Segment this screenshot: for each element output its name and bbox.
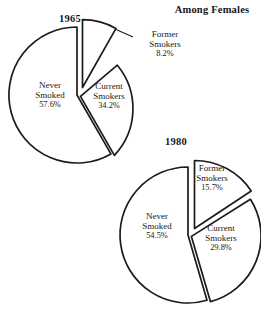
slice-label-line2: Smoked xyxy=(126,221,188,231)
slice-percent: 34.2% xyxy=(78,101,140,110)
pie-charts-canvas xyxy=(0,0,261,314)
slice-label-line1: Never xyxy=(126,211,188,221)
slice-percent: 15.7% xyxy=(184,183,240,192)
slice-label-line1: Former xyxy=(134,29,196,39)
figure-title: Among Females xyxy=(166,4,258,16)
slice-percent: 57.6% xyxy=(19,100,81,109)
slice-label-1965-never-smoked: Never Smoked 57.6% xyxy=(19,80,81,110)
slice-percent: 8.2% xyxy=(134,49,196,58)
slice-label-1980-former-smokers: Former Smokers 15.7% xyxy=(184,163,240,193)
slice-label-line1: Never xyxy=(19,80,81,90)
slice-label-1965-current-smokers: Current Smokers 34.2% xyxy=(78,81,140,111)
slice-percent: 29.8% xyxy=(190,243,252,252)
slice-label-1980-current-smokers: Current Smokers 29.8% xyxy=(190,223,252,253)
slice-label-1980-never-smoked: Never Smoked 54.5% xyxy=(126,211,188,241)
slice-label-line1: Current xyxy=(78,81,140,91)
slice-label-line1: Former xyxy=(184,163,240,173)
slice-label-line2: Smokers xyxy=(190,233,252,243)
slice-percent: 54.5% xyxy=(126,231,188,240)
slice-label-1965-former-smokers: Former Smokers 8.2% xyxy=(134,29,196,59)
leader-line-1965-former-smokers xyxy=(116,30,133,38)
slice-label-line2: Smokers xyxy=(78,91,140,101)
year-label-1980: 1980 xyxy=(150,136,202,148)
slice-label-line2: Smokers xyxy=(134,39,196,49)
slice-label-line1: Current xyxy=(190,223,252,233)
year-label-1965: 1965 xyxy=(44,13,96,25)
smoking-status-pie-figure: Among Females 1965 Former Smokers 8.2% N… xyxy=(0,0,261,314)
slice-label-line2: Smoked xyxy=(19,90,81,100)
slice-label-line2: Smokers xyxy=(184,173,240,183)
